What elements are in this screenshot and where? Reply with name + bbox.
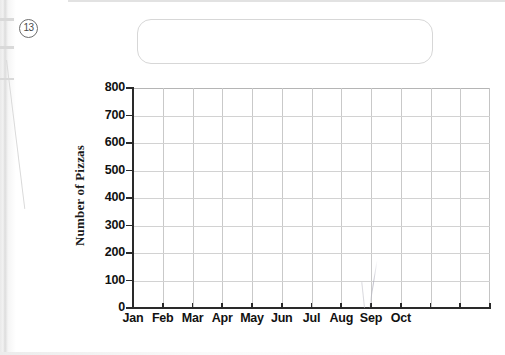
y-axis-tick-label: 600: [85, 135, 125, 149]
scan-artifact-line: [68, 0, 505, 2]
x-axis-tick: [459, 303, 461, 309]
x-axis-tick: [192, 303, 194, 309]
x-axis-tick: [489, 303, 491, 309]
x-axis-tick: [221, 303, 223, 309]
x-axis-tick: [251, 303, 253, 309]
x-axis-tick: [430, 303, 432, 309]
grid-line-horizontal: [133, 116, 490, 117]
y-axis-tick: [126, 225, 133, 227]
y-axis-tick-label: 800: [85, 80, 125, 94]
x-axis-tick: [162, 303, 164, 309]
x-axis-tick-label: Oct: [381, 311, 421, 325]
y-axis-tick-label: 400: [85, 190, 125, 204]
question-number-badge: 13: [19, 19, 38, 38]
y-axis-tick: [126, 142, 133, 144]
y-axis-tick: [126, 280, 133, 282]
chart-title-value: [138, 20, 432, 63]
scan-edge-shadow: [0, 0, 22, 355]
y-axis-tick: [126, 197, 133, 199]
grid-line-horizontal: [133, 226, 490, 227]
y-axis-tick-label: 200: [85, 245, 125, 259]
y-axis-tick-label: 500: [85, 163, 125, 177]
y-axis-tick: [126, 252, 133, 254]
x-axis-tick: [311, 303, 313, 309]
x-axis-tick: [132, 303, 134, 309]
scan-artifact-diagonal: [6, 60, 25, 209]
chart-title-input-box[interactable]: [137, 19, 433, 64]
grid-line-horizontal: [133, 171, 490, 172]
y-axis-tick-label: 300: [85, 218, 125, 232]
y-axis-tick: [126, 115, 133, 117]
y-axis-label: Number of Pizzas: [72, 88, 86, 303]
x-axis-tick: [281, 303, 283, 309]
chart-plot-area: [133, 88, 490, 308]
y-axis-tick: [126, 87, 133, 89]
grid-line-horizontal: [133, 143, 490, 144]
worksheet-page: 13 Number of Pizzas 80070060050040030020…: [0, 0, 505, 355]
x-axis-tick: [400, 303, 402, 309]
y-axis-tick-label: 700: [85, 108, 125, 122]
y-axis-tick-label: 100: [85, 273, 125, 287]
y-axis-tick: [126, 170, 133, 172]
scan-artifact-band: [0, 46, 14, 49]
x-axis-tick: [370, 303, 372, 309]
grid-line-horizontal: [133, 198, 490, 199]
scan-artifact-band: [0, 78, 14, 80]
grid-line-horizontal: [133, 253, 490, 254]
x-axis-tick: [340, 303, 342, 309]
scan-artifact-band: [0, 18, 14, 21]
grid-line-horizontal: [133, 281, 490, 282]
